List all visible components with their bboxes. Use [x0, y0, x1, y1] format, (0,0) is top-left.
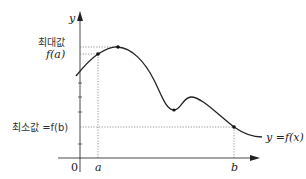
point-fa — [96, 52, 100, 56]
point-local-min — [172, 108, 175, 111]
x-tick-a-label: a — [95, 161, 102, 174]
y-axis — [77, 11, 83, 172]
max-label-korean: 최대값 — [38, 37, 65, 48]
guide-lines — [80, 47, 234, 158]
min-label: 최소값 =f(b) — [12, 122, 68, 133]
origin-label: 0 — [71, 161, 78, 174]
x-axis — [58, 155, 260, 161]
max-min-diagram: y 0 a b 최대값 f(a) 최소값 =f(b) y =f(x) — [0, 0, 306, 179]
y-axis-arrow-icon — [77, 11, 83, 21]
y-axis-label: y — [68, 12, 76, 25]
function-curve — [76, 47, 262, 137]
point-fb — [232, 125, 236, 129]
x-tick-b-label: b — [231, 161, 238, 174]
x-axis-arrow-icon — [250, 155, 260, 161]
marked-points — [96, 45, 236, 129]
point-peak — [116, 45, 120, 49]
curve-label: y =f(x) — [265, 131, 304, 144]
max-value-label: f(a) — [45, 48, 65, 61]
